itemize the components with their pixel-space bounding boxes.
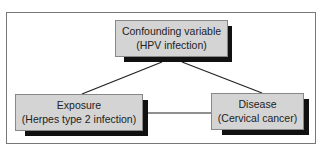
- node-title: Disease: [239, 98, 277, 111]
- node-title: Exposure: [57, 99, 101, 112]
- edge-confounder-exposure: [82, 62, 162, 94]
- node-subtitle: (Herpes type 2 infection): [22, 113, 136, 126]
- node-subtitle: (HPV infection): [136, 39, 207, 52]
- node-box: Confounding variable (HPV infection): [115, 20, 228, 57]
- node-subtitle: (Cervical cancer): [218, 112, 297, 125]
- node-box: Exposure (Herpes type 2 infection): [15, 94, 143, 131]
- node-title: Confounding variable: [122, 25, 221, 38]
- edge-confounder-disease: [182, 62, 262, 93]
- node-box: Disease (Cervical cancer): [211, 93, 304, 130]
